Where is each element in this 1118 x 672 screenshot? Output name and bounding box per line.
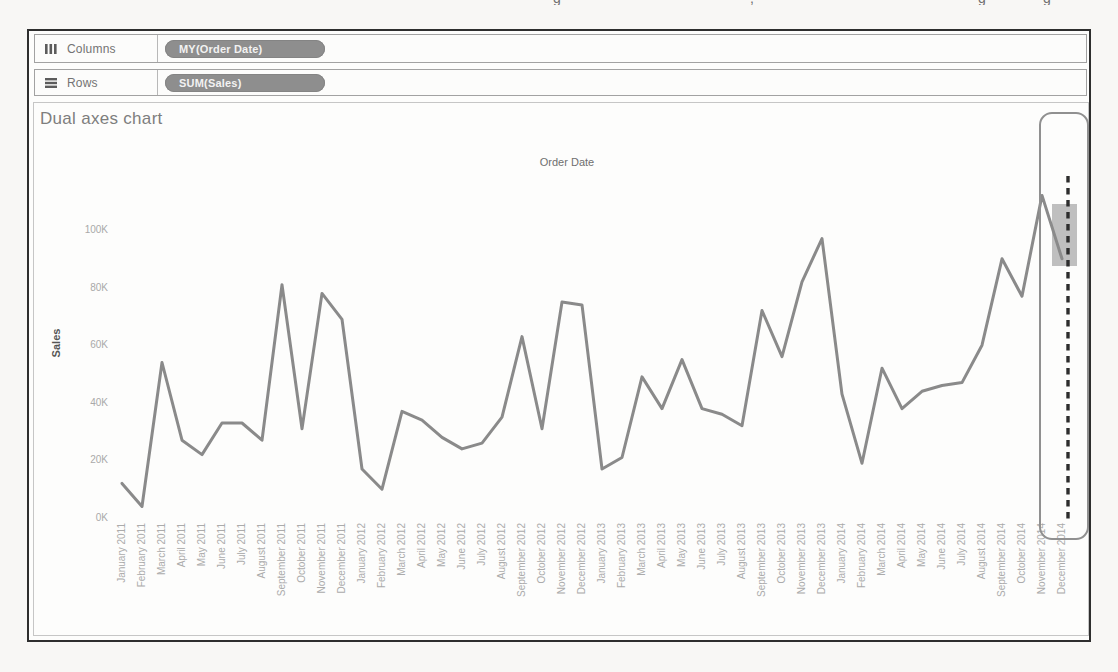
x-tick-label: July 2012 (475, 523, 489, 628)
x-tick-label: April 2014 (895, 523, 909, 628)
x-tick-label: November 2013 (795, 523, 809, 628)
x-tick-label: February 2011 (135, 523, 149, 628)
columns-icon (44, 43, 60, 55)
x-tick-label: July 2014 (955, 523, 969, 628)
x-tick-label: March 2011 (155, 523, 169, 628)
x-tick-label: December 2011 (335, 523, 349, 628)
sheet-title: Dual axes chart (40, 109, 163, 129)
y-tick-label: 100K (58, 224, 108, 236)
x-tick-label: November 2011 (315, 523, 329, 628)
x-tick-label: January 2011 (115, 523, 129, 628)
clipped-glyph-fragment: g (978, 0, 986, 5)
x-tick-label: August 2012 (495, 523, 509, 628)
columns-shelf-label: Columns (67, 42, 157, 56)
x-axis-title: Order Date (467, 156, 667, 168)
x-tick-label: March 2012 (395, 523, 409, 628)
tableau-figure: Columns MY(Order Date) Rows SUM(Sales) D… (27, 29, 1091, 642)
x-tick-label: August 2011 (255, 523, 269, 628)
x-tick-label: March 2013 (635, 523, 649, 628)
column-highlight-outline (1039, 112, 1089, 540)
y-tick-label: 40K (58, 397, 108, 409)
x-tick-label: July 2013 (715, 523, 729, 628)
x-tick-label: November 2012 (555, 523, 569, 628)
columns-shelf[interactable]: Columns MY(Order Date) (34, 34, 1087, 63)
x-tick-label: May 2012 (435, 523, 449, 628)
x-tick-label: May 2014 (915, 523, 929, 628)
x-tick-label: December 2012 (575, 523, 589, 628)
x-tick-label: September 2014 (995, 523, 1009, 628)
x-tick-label: October 2012 (535, 523, 549, 628)
y-tick-label: 20K (58, 454, 108, 466)
x-tick-label: April 2011 (175, 523, 189, 628)
x-tick-label: June 2014 (935, 523, 949, 628)
rows-pill-sum-sales[interactable]: SUM(Sales) (165, 74, 325, 92)
x-tick-label: January 2012 (355, 523, 369, 628)
x-tick-label: May 2013 (675, 523, 689, 628)
x-tick-label: February 2013 (615, 523, 629, 628)
rows-shelf-label: Rows (67, 76, 157, 90)
rows-icon (44, 77, 60, 89)
x-tick-label: February 2012 (375, 523, 389, 628)
x-tick-label: July 2011 (235, 523, 249, 628)
clipped-glyph-fragment: , (750, 0, 754, 5)
x-tick-label: October 2014 (1015, 523, 1029, 628)
y-tick-label: 60K (58, 339, 108, 351)
clipped-glyph-fragment: g (553, 0, 561, 5)
page-edge-text-artifacts: g,gg (0, 0, 1118, 5)
clipped-glyph-fragment: g (1043, 0, 1051, 5)
x-tick-label: February 2014 (855, 523, 869, 628)
x-tick-label: August 2014 (975, 523, 989, 628)
x-tick-label: September 2013 (755, 523, 769, 628)
x-tick-label: January 2014 (835, 523, 849, 628)
rows-shelf[interactable]: Rows SUM(Sales) (34, 69, 1087, 96)
rows-pill-area[interactable]: SUM(Sales) (157, 70, 1086, 95)
x-tick-label: March 2014 (875, 523, 889, 628)
x-tick-label: April 2012 (415, 523, 429, 628)
x-tick-label: September 2012 (515, 523, 529, 628)
x-tick-label: May 2011 (195, 523, 209, 628)
x-tick-label: June 2011 (215, 523, 229, 628)
columns-pill-area[interactable]: MY(Order Date) (157, 35, 1086, 62)
x-tick-label: December 2013 (815, 523, 829, 628)
y-tick-label: 0K (58, 512, 108, 524)
x-tick-label: June 2013 (695, 523, 709, 628)
x-tick-label: June 2012 (455, 523, 469, 628)
x-tick-label: September 2011 (275, 523, 289, 628)
x-tick-label: October 2013 (775, 523, 789, 628)
y-tick-label: 80K (58, 282, 108, 294)
x-tick-label: August 2013 (735, 523, 749, 628)
x-tick-label: April 2013 (655, 523, 669, 628)
x-tick-label: January 2013 (595, 523, 609, 628)
x-tick-label: October 2011 (295, 523, 309, 628)
columns-pill-my-order-date[interactable]: MY(Order Date) (165, 40, 325, 58)
